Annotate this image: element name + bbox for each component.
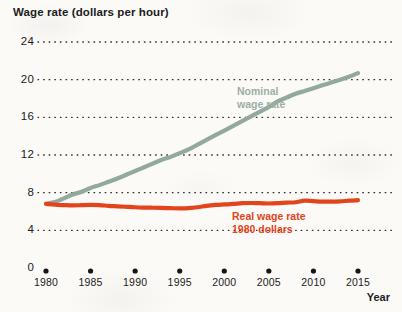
series-label-nominal-line2: wage rate [237,98,285,111]
x-tick-label: 2005 [246,276,292,288]
x-tick-dot [177,268,182,273]
x-tick-dot [222,268,227,273]
y-tick-label: 16 [8,110,34,122]
y-tick-label: 4 [8,223,34,235]
x-tick-dot [266,268,271,273]
wage-rate-line-chart: Wage rate (dollars per hour) 04812162024… [0,0,402,312]
x-tick-dot [88,268,93,273]
x-tick-dot [133,268,138,273]
series-lines-group [46,73,358,208]
series-label-real: Real wage rate 1980 dollars [232,210,306,236]
x-tick-label: 2015 [335,276,381,288]
y-tick-label: 8 [8,186,34,198]
y-tick-label: 0 [8,261,34,273]
series-line-nominal [46,73,358,203]
x-tick-label: 2000 [201,276,247,288]
series-label-real-line1: Real wage rate [232,210,306,223]
series-label-nominal: Nominal wage rate [237,85,285,111]
x-tick-label: 2010 [290,276,336,288]
x-tick-dot [43,268,48,273]
y-tick-label: 24 [8,35,34,47]
x-tick-dots-group [43,268,360,273]
series-line-real [46,200,358,208]
plot-area [0,0,402,312]
x-tick-label: 1980 [23,276,69,288]
series-label-nominal-line1: Nominal [237,85,285,98]
x-tick-label: 1990 [112,276,158,288]
series-label-real-line2: 1980 dollars [232,223,306,236]
y-tick-label: 20 [8,73,34,85]
x-tick-label: 1995 [157,276,203,288]
x-tick-label: 1985 [68,276,114,288]
x-tick-dot [355,268,360,273]
y-tick-label: 12 [8,148,34,160]
x-tick-dot [311,268,316,273]
x-axis-title: Year [367,291,390,303]
